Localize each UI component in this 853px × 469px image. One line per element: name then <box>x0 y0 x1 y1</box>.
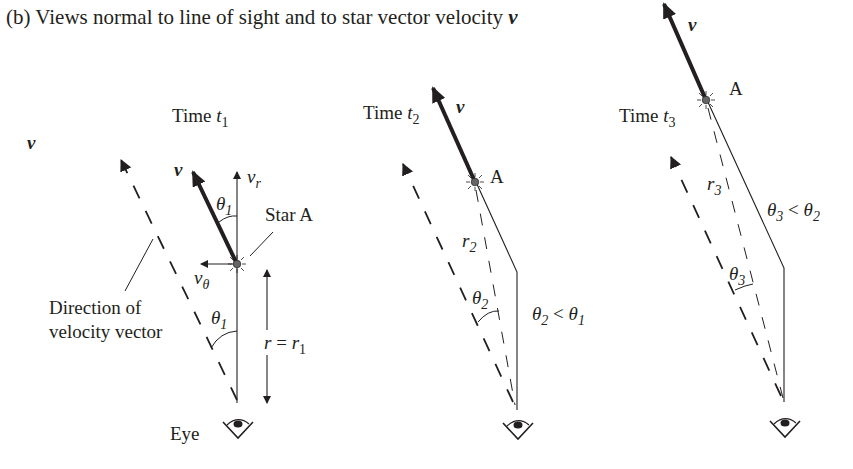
star-a-label: Star A <box>265 204 313 225</box>
line-of-sight-dashed <box>708 108 783 398</box>
velocity-direction-dashed-line <box>403 164 513 402</box>
time-label-t1: Time t1 <box>172 105 228 130</box>
panel-time-2: Time t2 v A r2 θ2 θ2 < θ1 <box>363 88 585 439</box>
eye-icon <box>770 419 800 437</box>
eye-label: Eye <box>170 423 200 444</box>
angle-label: θ3 <box>729 263 745 288</box>
velocity-vector-arrow <box>193 172 237 264</box>
star-velocity-diagram: (b) Views normal to line of sight and to… <box>0 0 853 469</box>
star-path-line <box>476 182 517 410</box>
velocity-symbol-legend: v <box>27 132 36 153</box>
angle-relation: θ2 < θ1 <box>532 303 585 328</box>
distance-label-r1: r = r1 <box>264 332 306 357</box>
velocity-label: v <box>688 14 697 35</box>
velocity-vector-arrow <box>433 88 475 182</box>
star-a-label: A <box>490 166 504 187</box>
panel-time-3: Time t3 v A r3 θ3 < θ2 θ3 <box>619 4 820 437</box>
distance-label-r2: r2 <box>462 230 476 255</box>
star-a-icon <box>471 178 479 186</box>
eye-icon <box>223 420 253 438</box>
tangential-velocity-label: vθ <box>194 267 209 292</box>
figure-caption: (b) Views normal to line of sight and to… <box>6 5 518 29</box>
direction-label-line2: velocity vector <box>49 321 163 342</box>
angle-arc <box>478 311 499 322</box>
angle-label-lower: θ1 <box>211 307 227 332</box>
velocity-label: v <box>456 96 465 117</box>
angle-label-upper: θ1 <box>216 193 232 218</box>
star-a-icon <box>233 260 241 268</box>
panel-time-1: Time t1 vr v θ1 vθ Star A r = r1 θ1 Dire… <box>49 105 313 444</box>
star-a-icon <box>702 96 710 104</box>
velocity-direction-dashed-line <box>671 157 781 396</box>
velocity-vector-arrow <box>664 4 706 100</box>
star-path-line <box>707 100 784 402</box>
star-label-leader <box>250 232 273 256</box>
star-a-label: A <box>729 78 743 99</box>
direction-label-leader <box>125 239 153 291</box>
time-label-t2: Time t2 <box>363 102 419 127</box>
time-label-t3: Time t3 <box>619 105 675 130</box>
velocity-label: v <box>174 159 183 180</box>
angle-relation: θ3 < θ2 <box>767 199 820 224</box>
distance-label-r3: r3 <box>707 173 721 198</box>
angle-arc-lower <box>211 331 237 348</box>
direction-label-line1: Direction of <box>49 297 142 318</box>
radial-velocity-label: vr <box>247 166 261 191</box>
angle-label: θ2 <box>472 287 488 312</box>
eye-icon <box>503 421 533 439</box>
